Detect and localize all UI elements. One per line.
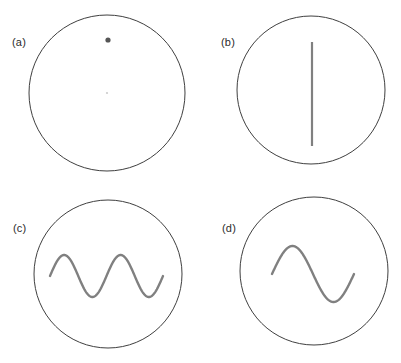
aperture-circle-d: [240, 197, 388, 345]
panel-d: [240, 197, 388, 345]
panel-b: [237, 16, 385, 164]
panel-a: [29, 15, 185, 171]
fixation-mark-a: [106, 92, 108, 94]
figure-canvas: (a) (b) (c) (d): [0, 0, 401, 363]
panel-label-c: (c): [13, 223, 26, 234]
panel-label-a: (a): [12, 37, 26, 48]
panel-c: [34, 200, 182, 348]
point-dot: [105, 37, 110, 42]
panel-label-b: (b): [221, 37, 235, 48]
panel-label-d: (d): [222, 223, 236, 234]
figure-vector-layer: [0, 0, 401, 363]
